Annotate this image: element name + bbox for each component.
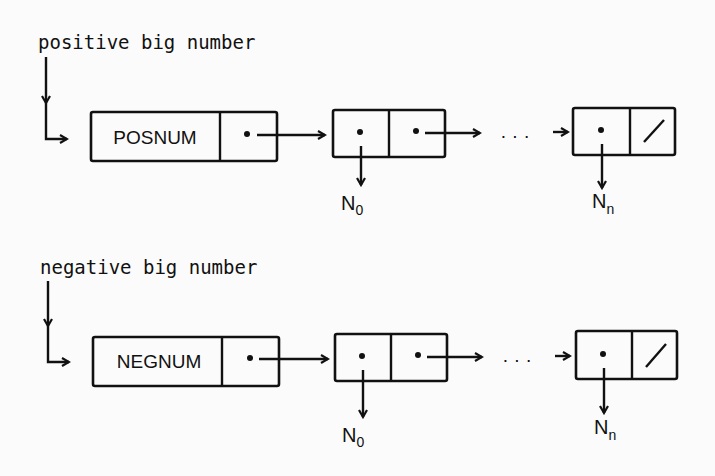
header-tag: NEGNUM [117, 351, 201, 372]
big-number-diagram: positive big number POSNUM N0 [0, 0, 715, 476]
header-node: NEGNUM [93, 337, 328, 386]
cdr-dot [413, 128, 419, 134]
row-label: negative big number [40, 256, 257, 278]
digit-value: Nn [594, 416, 616, 443]
ellipsis: · · · [502, 349, 532, 370]
car-dot [600, 351, 606, 357]
header-node: POSNUM [91, 112, 325, 161]
row-negative: negative big number NEGNUM N0 · · · [40, 256, 677, 450]
digit-value: Nn [592, 190, 614, 217]
header-tag: POSNUM [113, 127, 196, 148]
first-digit-node: N0 [333, 110, 480, 218]
row-positive: positive big number POSNUM N0 [38, 31, 675, 218]
first-digit-node: N0 [335, 334, 482, 450]
nil-terminator [644, 120, 664, 142]
last-digit-node: Nn [576, 331, 677, 443]
car-dot [598, 127, 604, 133]
digit-value: N0 [341, 192, 363, 218]
pointer-dot [247, 355, 253, 361]
pointer-dot [244, 131, 250, 137]
nil-terminator [646, 344, 666, 367]
car-dot [357, 129, 363, 135]
row-label: positive big number [38, 31, 255, 53]
digit-value: N0 [342, 424, 364, 450]
ellipsis: · · · [500, 125, 530, 146]
entry-pointer-arrow [46, 57, 67, 139]
last-digit-node: Nn [573, 108, 675, 217]
car-dot [359, 353, 365, 359]
entry-pointer-arrow [48, 281, 69, 362]
cdr-dot [415, 352, 421, 358]
